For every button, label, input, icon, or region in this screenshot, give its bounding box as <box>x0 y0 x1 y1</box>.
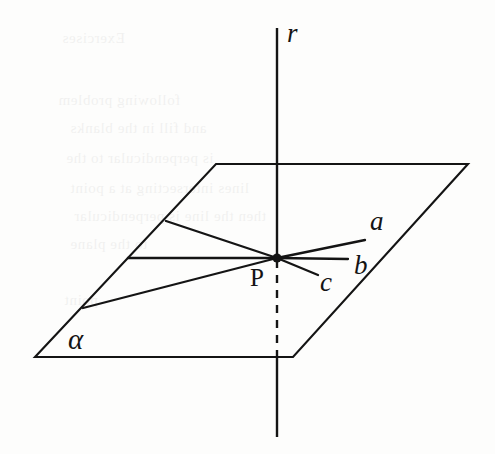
label-plane-alpha: α <box>68 325 83 354</box>
label-line-c: c <box>320 269 332 296</box>
diagram-svg <box>0 0 495 454</box>
plane-alpha <box>35 164 468 357</box>
point-p-marker <box>272 253 281 262</box>
ray-a <box>277 240 365 258</box>
ray-lower-left <box>83 258 277 308</box>
label-line-r: r <box>287 20 298 47</box>
ray-c <box>277 258 318 275</box>
label-point-p: P <box>250 265 264 290</box>
ray-upper-left <box>166 221 277 258</box>
label-line-b: b <box>354 252 368 279</box>
ray-b <box>277 258 348 259</box>
label-line-a: a <box>370 208 384 235</box>
figure-canvas: Exercisesfollowing problemand fill in th… <box>0 0 495 454</box>
